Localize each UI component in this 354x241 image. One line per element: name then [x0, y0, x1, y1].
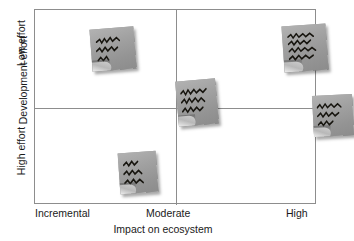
sticky-note-body — [281, 24, 328, 73]
x-axis-label-moderate: Moderate — [146, 207, 190, 219]
sticky-note-body — [175, 78, 219, 126]
sticky-note[interactable] — [175, 78, 219, 126]
x-axis-title: Impact on ecosystem — [0, 223, 326, 235]
sticky-note-curl — [91, 61, 111, 71]
quadrant-divider-horizontal — [35, 108, 317, 109]
sticky-note-body — [118, 151, 159, 195]
sticky-note[interactable] — [118, 151, 159, 195]
plot-area — [34, 9, 316, 204]
sticky-note[interactable] — [281, 24, 328, 73]
x-axis-label-incremental: Incremental — [35, 207, 90, 219]
y-axis-label-high-effort: High effort — [15, 106, 27, 196]
sticky-note-body — [312, 94, 354, 137]
sticky-note-curl — [283, 61, 304, 72]
sticky-note-body — [89, 26, 136, 71]
sticky-note-curl — [119, 184, 137, 194]
sticky-note[interactable] — [89, 26, 136, 71]
x-axis-label-high: High — [286, 207, 308, 219]
y-axis-label-low-effort: Low effort — [15, 0, 27, 88]
sticky-note-curl — [313, 127, 332, 137]
sticky-note[interactable] — [312, 94, 354, 137]
sticky-note-curl — [178, 115, 197, 126]
